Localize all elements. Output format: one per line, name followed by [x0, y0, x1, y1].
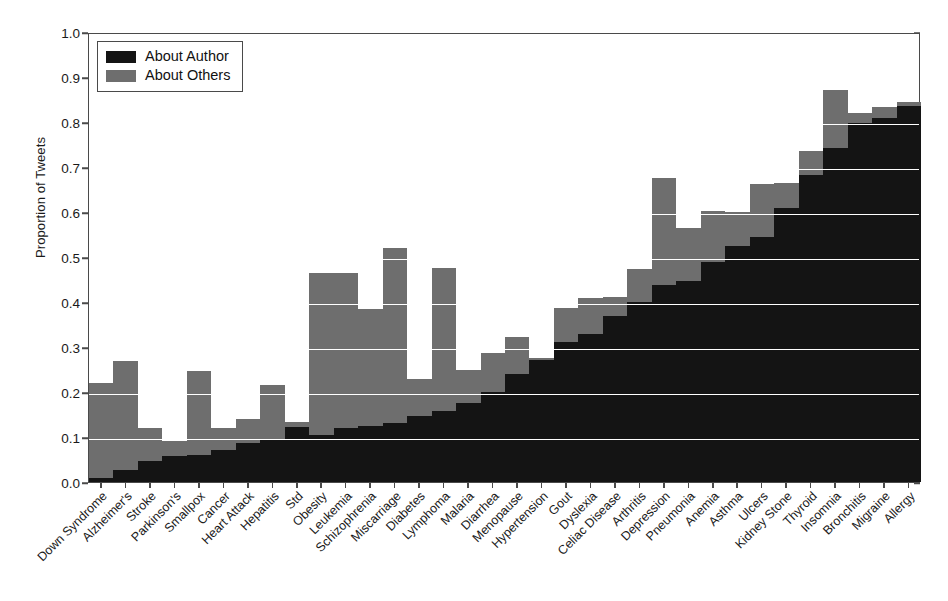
x-tick-mark: [565, 483, 567, 488]
bar: [113, 32, 137, 482]
x-tick-mark: [688, 483, 690, 488]
bar: [162, 32, 186, 482]
x-tick-mark: [369, 483, 371, 488]
bar-segment-about-author: [505, 374, 529, 482]
bar-segment-about-others: [383, 248, 407, 423]
bar-segment-about-others: [334, 273, 358, 428]
bars-container: [89, 34, 919, 482]
bar-segment-about-author: [456, 403, 480, 482]
x-tick-mark: [859, 483, 861, 488]
bar-segment-about-others: [260, 385, 284, 440]
x-tick-mark: [296, 483, 298, 488]
y-tick-label: 0.6: [20, 206, 80, 221]
bar: [578, 32, 602, 482]
bar-segment-about-others: [236, 419, 260, 444]
bar: [603, 32, 627, 482]
bar: [481, 32, 505, 482]
x-tick-mark: [785, 483, 787, 488]
y-tick-label: 0.2: [20, 386, 80, 401]
bar-segment-about-author: [432, 411, 456, 482]
x-tick-mark: [614, 483, 616, 488]
bar: [554, 32, 578, 482]
bar: [260, 32, 284, 482]
bar-segment-about-author: [701, 262, 725, 483]
x-tick-mark: [883, 483, 885, 488]
legend-label-about-author: About Author: [145, 49, 229, 64]
bar-segment-about-others: [725, 212, 749, 246]
bar-segment-about-author: [334, 428, 358, 482]
x-tick-mark: [223, 483, 225, 488]
bar-segment-about-author: [774, 208, 798, 483]
x-tick-mark: [810, 483, 812, 488]
bar-segment-about-author: [309, 435, 333, 482]
bar-chart-figure: Proportion of Tweets 0.00.10.20.30.40.50…: [0, 0, 948, 601]
legend-label-about-others: About Others: [145, 68, 230, 83]
x-tick-mark: [492, 483, 494, 488]
bar-segment-about-others: [627, 269, 651, 302]
bar-segment-about-others: [309, 273, 333, 435]
y-tick-label: 0.7: [20, 161, 80, 176]
bar-segment-about-author: [725, 246, 749, 482]
bar: [89, 32, 113, 482]
x-tick-mark: [345, 483, 347, 488]
x-tick-mark: [394, 483, 396, 488]
bar: [285, 32, 309, 482]
bar: [774, 32, 798, 482]
bar: [407, 32, 431, 482]
bar-segment-about-author: [627, 302, 651, 482]
bar-segment-about-others: [89, 383, 113, 478]
bar-segment-about-others: [603, 297, 627, 316]
x-tick-mark: [712, 483, 714, 488]
x-tick-mark: [174, 483, 176, 488]
bar-segment-about-author: [554, 342, 578, 482]
bar: [529, 32, 553, 482]
bar-segment-about-others: [701, 211, 725, 262]
x-tick-mark: [467, 483, 469, 488]
bar-segment-about-others: [774, 183, 798, 207]
bar-segment-about-others: [578, 298, 602, 334]
bar: [897, 32, 921, 482]
bar-segment-about-author: [750, 237, 774, 482]
bar-segment-about-author: [823, 148, 847, 482]
bar-segment-about-others: [432, 268, 456, 411]
y-tick-label: 1.0: [20, 26, 80, 41]
x-tick-mark: [272, 483, 274, 488]
bar-segment-about-author: [872, 118, 896, 482]
bar-segment-about-author: [481, 392, 505, 482]
bar-segment-about-author: [285, 427, 309, 482]
y-tick-label: 0.4: [20, 296, 80, 311]
bar-segment-about-others: [799, 151, 823, 174]
bar-segment-about-others: [848, 113, 872, 123]
bar-segment-about-others: [872, 107, 896, 118]
bar-segment-about-author: [113, 470, 137, 482]
y-tick-label: 0.9: [20, 71, 80, 86]
x-tick-mark: [198, 483, 200, 488]
bar-segment-about-author: [578, 334, 602, 483]
bar-segment-about-others: [113, 361, 137, 470]
bar-segment-about-author: [652, 285, 676, 482]
bar-segment-about-author: [407, 416, 431, 482]
y-tick-label: 0.8: [20, 116, 80, 131]
bar: [211, 32, 235, 482]
x-tick-mark: [149, 483, 151, 488]
bar-segment-about-others: [554, 308, 578, 342]
bar-segment-about-author: [358, 426, 382, 482]
bar-segment-about-author: [236, 443, 260, 482]
bar-segment-about-author: [799, 175, 823, 482]
x-tick-mark: [834, 483, 836, 488]
bar-segment-about-others: [750, 184, 774, 237]
bar: [505, 32, 529, 482]
x-tick-mark: [125, 483, 127, 488]
bar-segment-about-author: [603, 316, 627, 483]
bar: [652, 32, 676, 482]
bar-segment-about-author: [848, 123, 872, 482]
bar-segment-about-others: [505, 337, 529, 375]
y-tick-label: 0.5: [20, 251, 80, 266]
bar-segment-about-others: [652, 178, 676, 285]
legend-swatch-about-author: [106, 51, 136, 63]
bar-segment-about-others: [456, 370, 480, 404]
x-tick-mark: [516, 483, 518, 488]
bar: [872, 32, 896, 482]
bar-segment-about-author: [260, 440, 284, 482]
bar-segment-about-others: [187, 371, 211, 455]
